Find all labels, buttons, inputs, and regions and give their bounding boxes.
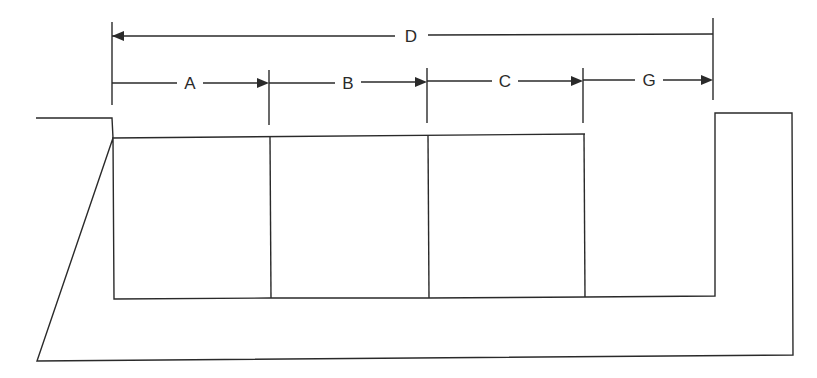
label-c: C: [499, 72, 511, 91]
u-shaped-channel: [36, 113, 793, 361]
label-b: B: [342, 74, 353, 93]
arrowhead-left-icon: [112, 31, 124, 41]
label-g: G: [642, 71, 655, 90]
arrowhead-g-icon: [701, 75, 713, 85]
boxes-top-edge: [112, 134, 585, 138]
arrowhead-c-icon: [571, 76, 583, 86]
dimension-line-d-right: [428, 34, 713, 35]
box-3-right-edge: [584, 134, 585, 297]
label-a: A: [184, 74, 196, 93]
segment-dimensions: A B C G: [112, 68, 713, 125]
box-2-right-edge: [428, 135, 429, 298]
dimension-diagram: D A B C G: [0, 0, 817, 378]
label-d: D: [405, 27, 417, 46]
boxes: [112, 134, 585, 298]
box-1-right-edge: [270, 137, 271, 298]
arrowhead-b-icon: [415, 77, 427, 87]
arrowhead-a-icon: [257, 78, 269, 88]
dimension-d: D: [112, 18, 713, 105]
